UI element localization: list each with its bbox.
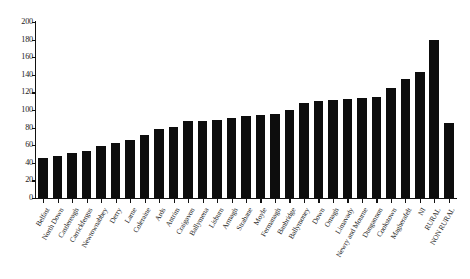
bar-column[interactable] <box>198 22 208 198</box>
x-axis-tick <box>43 199 44 203</box>
bar-column[interactable] <box>299 22 309 198</box>
x-axis-tick <box>434 199 435 203</box>
bar-column[interactable] <box>38 22 48 198</box>
bar[interactable] <box>212 120 222 198</box>
x-axis-tick <box>72 199 73 203</box>
x-axis-tick <box>217 199 218 203</box>
bar[interactable] <box>343 99 353 198</box>
bar[interactable] <box>372 97 382 198</box>
bar[interactable] <box>183 121 193 198</box>
bar-column[interactable] <box>111 22 121 198</box>
bar-column[interactable] <box>154 22 164 198</box>
y-axis-tick-label: 160 <box>21 53 33 61</box>
bar[interactable] <box>96 146 106 198</box>
y-axis-tick-label: 200 <box>21 18 33 26</box>
bar[interactable] <box>314 101 324 198</box>
plot-area: 020406080100120140160180200 <box>36 22 456 198</box>
x-axis-tick <box>159 199 160 203</box>
bar-column[interactable] <box>82 22 92 198</box>
bar-column[interactable] <box>256 22 266 198</box>
bar-column[interactable] <box>53 22 63 198</box>
bar[interactable] <box>270 114 280 198</box>
x-axis-tick <box>101 199 102 203</box>
bar[interactable] <box>154 129 164 198</box>
bar[interactable] <box>299 103 309 198</box>
y-axis-tick-label: 40 <box>25 159 33 167</box>
x-axis-tick <box>174 199 175 203</box>
bar[interactable] <box>227 118 237 198</box>
y-axis-tick-label: 20 <box>25 176 33 184</box>
bar[interactable] <box>38 158 48 198</box>
x-axis-tick <box>449 199 450 203</box>
bar[interactable] <box>111 143 121 198</box>
x-axis-tick <box>391 199 392 203</box>
bar-column[interactable] <box>444 22 454 198</box>
bar-column[interactable] <box>96 22 106 198</box>
x-axis-tick <box>347 199 348 203</box>
bar-column[interactable] <box>343 22 353 198</box>
x-axis-tick-label-text: Derry <box>108 204 124 225</box>
bar-column[interactable] <box>429 22 439 198</box>
bar-column[interactable] <box>357 22 367 198</box>
x-axis-tick <box>405 199 406 203</box>
x-axis-tick <box>130 199 131 203</box>
bar-column[interactable] <box>169 22 179 198</box>
bar-column[interactable] <box>183 22 193 198</box>
x-axis-tick-label: NI <box>417 204 429 217</box>
x-axis-tick <box>246 199 247 203</box>
x-axis-tick <box>289 199 290 203</box>
x-axis-tick <box>87 199 88 203</box>
bar-column[interactable] <box>270 22 280 198</box>
y-axis-tick-label: 120 <box>21 88 33 96</box>
bar-column[interactable] <box>125 22 135 198</box>
x-axis-tick <box>232 199 233 203</box>
y-axis-tick-label: 100 <box>21 106 33 114</box>
y-axis-tick-label: 80 <box>25 123 33 131</box>
bar-chart: 020406080100120140160180200 BelfastNorth… <box>0 0 470 279</box>
bar[interactable] <box>241 116 251 198</box>
bar[interactable] <box>140 135 150 198</box>
x-axis-tick <box>203 199 204 203</box>
bar[interactable] <box>444 123 454 198</box>
bar[interactable] <box>357 98 367 198</box>
y-axis-tick-label: 140 <box>21 71 33 79</box>
x-axis-tick <box>333 199 334 203</box>
bar-column[interactable] <box>401 22 411 198</box>
bar[interactable] <box>386 88 396 198</box>
bar[interactable] <box>169 127 179 198</box>
bar[interactable] <box>198 121 208 198</box>
x-axis-tick-label-text: NI <box>417 204 429 217</box>
bar-column[interactable] <box>386 22 396 198</box>
bar[interactable] <box>401 79 411 198</box>
bar-column[interactable] <box>372 22 382 198</box>
bar-column[interactable] <box>415 22 425 198</box>
bar-column[interactable] <box>140 22 150 198</box>
x-axis-tick <box>58 199 59 203</box>
x-axis-tick <box>188 199 189 203</box>
bar-column[interactable] <box>227 22 237 198</box>
bar-column[interactable] <box>241 22 251 198</box>
bar-column[interactable] <box>212 22 222 198</box>
bar[interactable] <box>256 115 266 198</box>
bar[interactable] <box>328 100 338 198</box>
x-axis-tick <box>260 199 261 203</box>
x-axis-tick <box>420 199 421 203</box>
bar[interactable] <box>125 140 135 198</box>
bar-column[interactable] <box>285 22 295 198</box>
x-axis-tick <box>275 199 276 203</box>
x-axis-tick <box>376 199 377 203</box>
x-axis-tick <box>116 199 117 203</box>
bar[interactable] <box>67 153 77 198</box>
bar[interactable] <box>53 156 63 198</box>
y-axis-tick-label: 60 <box>25 141 33 149</box>
bar-column[interactable] <box>67 22 77 198</box>
bar[interactable] <box>429 40 439 198</box>
y-axis-tick-label: 180 <box>21 35 33 43</box>
bar-column[interactable] <box>328 22 338 198</box>
x-axis-tick <box>362 199 363 203</box>
bar[interactable] <box>415 72 425 198</box>
bar[interactable] <box>285 110 295 198</box>
bar[interactable] <box>82 151 92 198</box>
bar-column[interactable] <box>314 22 324 198</box>
y-axis-tick-label: 0 <box>29 194 33 202</box>
